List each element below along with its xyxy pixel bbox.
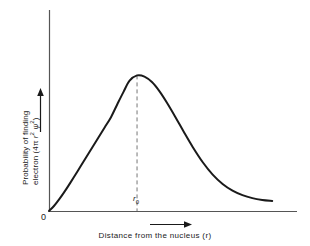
r0-label-subscript: 0 [136,199,139,205]
y-label-prefix: electron (4 [31,146,40,185]
y-label-pi: π [31,140,40,146]
radial-probability-chart: Probability of finding electron (4π r2 ψ… [0,0,310,246]
y-label-psi-exponent: 2 [29,120,35,123]
chart-canvas [0,0,310,246]
y-label-psi: ψ [31,124,40,130]
x-axis-label: Distance from the nucleus (r) [0,231,310,240]
origin-label: 0 [41,212,46,222]
right-arrow-icon [150,221,192,228]
y-label-suffix: ) [31,117,40,120]
y-label-r-exponent: 2 [29,132,35,135]
probability-curve [49,75,272,211]
r0-label: r0 [133,194,139,203]
y-label-r: r [31,135,40,138]
y-axis-label-line2: electron (4π r2 ψ2) [31,117,41,185]
y-axis-label: Probability of finding electron (4π r2 ψ… [0,0,40,215]
